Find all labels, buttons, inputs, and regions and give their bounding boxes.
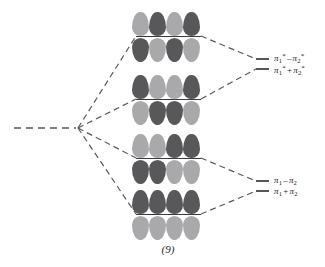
link-line-set1-level1	[201, 36, 256, 59]
orbital-lobe-top	[132, 190, 149, 214]
pi-subscript: 2	[294, 179, 297, 186]
orbital-lobe-bottom	[132, 160, 149, 184]
operator-symbol: –	[282, 175, 289, 185]
orbital-lobe-bottom	[166, 160, 183, 184]
orbital-lobe-pair-1-1	[132, 12, 149, 62]
orbital-lobe-bottom	[132, 101, 149, 125]
orbital-lobe-pair-3-4	[183, 134, 200, 184]
link-line-set4-level4	[201, 191, 256, 214]
orbital-lobe-pair-3-2	[149, 134, 166, 184]
link-line-set3-level3	[201, 158, 256, 181]
pi-superscript: *	[301, 64, 305, 72]
orbital-lobe-top	[166, 134, 183, 158]
orbital-lobe-top	[132, 134, 149, 158]
orbital-lobe-bottom	[183, 101, 200, 125]
fan-line-to-set-2	[78, 99, 136, 128]
energy-level-label-1: π1*–π2*	[274, 52, 304, 64]
orbital-lobe-bottom	[149, 216, 166, 240]
fan-line-to-set-4	[78, 128, 136, 214]
pi-subscript: 2	[294, 190, 297, 197]
pi-superscript: *	[301, 52, 305, 60]
orbital-lobe-pair-4-2	[149, 190, 166, 240]
orbital-lobe-bottom	[132, 38, 149, 62]
orbital-lobe-bottom	[132, 216, 149, 240]
energy-level-label-2: π1*+π2*	[274, 64, 305, 76]
orbital-lobe-top	[183, 12, 200, 36]
orbital-set-4	[132, 190, 208, 240]
orbital-lobe-bottom	[149, 101, 166, 125]
nodal-plane-line-4	[136, 214, 201, 215]
orbital-lobe-pair-2-1	[132, 75, 149, 125]
energy-level-line-2	[256, 68, 269, 70]
orbital-lobe-pair-3-3	[166, 134, 183, 184]
link-line-set2-level2	[201, 69, 256, 99]
orbital-lobe-top	[149, 134, 166, 158]
orbital-set-2	[132, 75, 208, 125]
orbital-lobe-top	[166, 75, 183, 99]
orbital-lobe-top	[183, 134, 200, 158]
fan-line-to-set-3	[78, 128, 136, 158]
nodal-plane-line-1	[136, 36, 201, 37]
orbital-lobe-pair-1-4	[183, 12, 200, 62]
orbital-lobe-pair-4-3	[166, 190, 183, 240]
orbital-lobe-bottom	[183, 160, 200, 184]
orbital-lobe-pair-3-1	[132, 134, 149, 184]
energy-level-line-1	[256, 58, 269, 60]
energy-level-line-3	[256, 180, 269, 182]
energy-level-label-4: π1+π2	[274, 186, 298, 197]
orbital-lobe-pair-1-3	[166, 12, 183, 62]
figure-caption: (9)	[140, 243, 196, 255]
orbital-lobe-bottom	[166, 216, 183, 240]
orbital-lobe-bottom	[183, 38, 200, 62]
orbital-lobe-top	[149, 12, 166, 36]
orbital-lobe-pair-4-4	[183, 190, 200, 240]
energy-level-line-4	[256, 190, 269, 192]
orbital-lobe-bottom	[183, 216, 200, 240]
orbital-lobe-top	[132, 12, 149, 36]
mo-correlation-figure: π1*–π2* π1*+π2* π1–π2 π1+π2 (9)	[0, 0, 325, 267]
orbital-lobe-bottom	[149, 160, 166, 184]
orbital-lobe-top	[166, 190, 183, 214]
orbital-lobe-bottom	[166, 38, 183, 62]
orbital-lobe-top	[149, 75, 166, 99]
nodal-plane-line-2	[136, 99, 201, 100]
orbital-lobe-bottom	[166, 101, 183, 125]
orbital-lobe-bottom	[149, 38, 166, 62]
orbital-lobe-top	[149, 190, 166, 214]
operator-symbol: –	[286, 53, 293, 63]
orbital-lobe-top	[183, 75, 200, 99]
energy-level-label-3: π1–π2	[274, 175, 297, 186]
orbital-set-1	[132, 12, 208, 62]
orbital-lobe-pair-2-4	[183, 75, 200, 125]
orbital-lobe-pair-2-2	[149, 75, 166, 125]
orbital-lobe-pair-1-2	[149, 12, 166, 62]
orbital-lobe-pair-2-3	[166, 75, 183, 125]
orbital-lobe-top	[132, 75, 149, 99]
orbital-lobe-pair-4-1	[132, 190, 149, 240]
fan-line-to-set-1	[78, 36, 136, 128]
nodal-plane-line-3	[136, 158, 201, 159]
orbital-lobe-top	[183, 190, 200, 214]
orbital-set-3	[132, 134, 208, 184]
orbital-lobe-top	[166, 12, 183, 36]
